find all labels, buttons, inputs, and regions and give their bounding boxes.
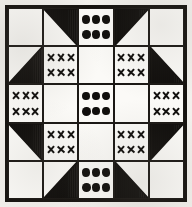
cross-icon (47, 53, 56, 62)
cross-icon (162, 91, 171, 100)
patch-dot-patch-center (78, 84, 113, 122)
dot-icon (102, 168, 110, 177)
dot-motif-group (79, 9, 112, 45)
cross-icon (162, 107, 171, 116)
dot-icon (82, 107, 91, 116)
cross-icon (152, 107, 161, 116)
cross-icon (56, 53, 65, 62)
cross-icon (152, 91, 161, 100)
dot-icon (82, 30, 91, 39)
dot-icon (92, 92, 100, 101)
dot-icon (102, 183, 110, 192)
cross-icon (172, 107, 181, 116)
patch-star-point-top-left (43, 8, 78, 46)
cross-icon (66, 145, 75, 154)
cross-icon (66, 68, 75, 77)
patch-star-point-right-top (149, 46, 184, 84)
dot-icon (82, 92, 90, 101)
patch-corner-top-right (149, 8, 184, 46)
cross-icon (31, 107, 40, 116)
patch-cross-patch-upper-left (43, 46, 78, 84)
patch-dot-patch-top-center (78, 8, 113, 46)
dot-icon (82, 183, 91, 192)
cross-icon (136, 145, 145, 154)
dot-motif-group (79, 162, 112, 198)
cross-icon (136, 130, 145, 139)
cross-icon (21, 107, 30, 116)
patch-cross-patch-upper-right (114, 46, 149, 84)
cross-icon (127, 145, 136, 154)
dot-icon (102, 15, 110, 24)
cross-icon (117, 145, 126, 154)
cross-icon (11, 91, 20, 100)
cross-icon (47, 68, 56, 77)
cross-icon (66, 53, 75, 62)
cross-icon (47, 145, 56, 154)
patch-cross-patch-lower-right (114, 123, 149, 161)
patch-cross-patch-mid-left (8, 84, 43, 122)
cross-icon (31, 91, 40, 100)
dot-motif-group (79, 85, 112, 121)
patch-star-point-left-bottom (8, 123, 43, 161)
cross-motif-group (150, 85, 183, 121)
cross-motif-group (115, 47, 148, 83)
cross-icon (127, 130, 136, 139)
dot-icon (92, 107, 100, 116)
dot-icon (102, 107, 110, 116)
patch-plain-mid-right-inner (114, 84, 149, 122)
cross-icon (56, 130, 65, 139)
cross-icon (117, 53, 126, 62)
cross-icon (56, 68, 65, 77)
cross-motif-group (115, 124, 148, 160)
cross-icon (11, 107, 20, 116)
patch-corner-bottom-right (149, 161, 184, 199)
cross-motif-group (44, 124, 77, 160)
dot-icon (82, 15, 90, 24)
patch-plain-mid-left-inner (43, 84, 78, 122)
cross-motif-group (9, 85, 42, 121)
cross-icon (127, 53, 136, 62)
patch-star-point-bottom-left (43, 161, 78, 199)
cross-icon (21, 91, 30, 100)
patch-corner-bottom-left (8, 161, 43, 199)
dot-icon (92, 30, 100, 39)
patch-grid (8, 8, 184, 199)
patch-star-point-bottom-right (114, 161, 149, 199)
cross-icon (117, 68, 126, 77)
dot-icon (102, 92, 110, 101)
cross-icon (127, 68, 136, 77)
patch-plain-top-center-inner (78, 46, 113, 84)
patch-plain-bottom-center-inner (78, 123, 113, 161)
quilt-block-diagram (0, 0, 192, 207)
patch-dot-patch-bottom-center (78, 161, 113, 199)
cross-icon (136, 68, 145, 77)
dot-icon (82, 168, 90, 177)
dot-icon (92, 183, 100, 192)
cross-motif-group (44, 47, 77, 83)
patch-star-point-right-bottom (149, 123, 184, 161)
patch-star-point-top-right (114, 8, 149, 46)
patch-star-point-left-top (8, 46, 43, 84)
cross-icon (117, 130, 126, 139)
patch-cross-patch-mid-right (149, 84, 184, 122)
cross-icon (47, 130, 56, 139)
dot-icon (102, 30, 110, 39)
patch-corner-top-left (8, 8, 43, 46)
patch-cross-patch-lower-left (43, 123, 78, 161)
cross-icon (66, 130, 75, 139)
cross-icon (136, 53, 145, 62)
dot-icon (92, 15, 100, 24)
cross-icon (56, 145, 65, 154)
dot-icon (92, 168, 100, 177)
cross-icon (172, 91, 181, 100)
